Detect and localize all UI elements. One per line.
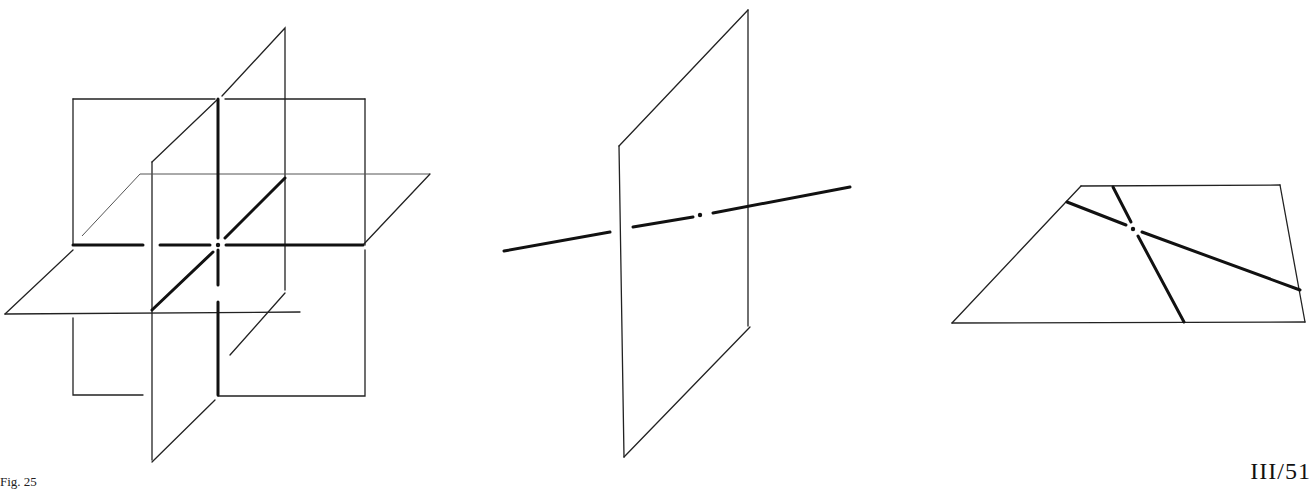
vertical-plane [619, 10, 750, 457]
crossing-point [1131, 227, 1135, 231]
panel-line-through-plane [504, 10, 850, 457]
piercing-line [504, 187, 850, 251]
panel-two-lines-in-plane [952, 185, 1305, 323]
piercing-point [698, 213, 702, 217]
crossing-lines [1067, 187, 1300, 322]
figure-caption: Fig. 25 [0, 474, 37, 490]
panel-three-planes [5, 28, 430, 462]
horizontal-plane-2 [952, 185, 1305, 323]
page-label: III/51 [1250, 458, 1311, 485]
intersection-point [216, 243, 220, 247]
intersection-lines [73, 99, 363, 395]
